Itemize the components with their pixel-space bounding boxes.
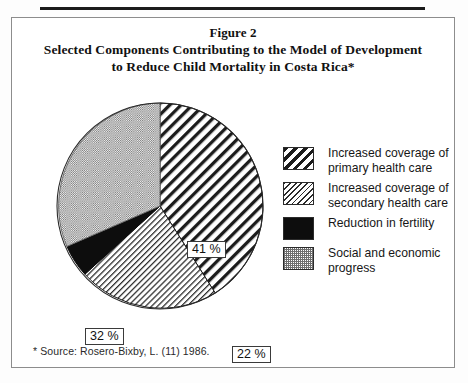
figure-caption: Figure 2 Selected Components Contributin… (11, 24, 455, 75)
legend: Increased coverage of primary health car… (283, 146, 453, 281)
figure-title-line-2: to Reduce Child Mortality in Costa Rica* (11, 58, 455, 75)
pie-chart: 41 % 32 % 22 % 5 % (52, 96, 272, 318)
pie-label-32: 32 % (85, 328, 124, 345)
pie-label-41: 41 % (187, 241, 226, 258)
legend-item-reduction-in-fertility: Reduction in fertility (283, 216, 453, 240)
legend-label-secondary-health-care: Increased coverage of secondary health c… (328, 181, 449, 210)
figure-root: Figure 2 Selected Components Contributin… (0, 0, 468, 383)
legend-swatch-solid-black-icon (283, 217, 314, 240)
top-rule (40, 7, 425, 10)
legend-label-line-1: Reduction in fertility (328, 216, 434, 231)
legend-swatch-hatch-fine-icon (283, 182, 314, 205)
legend-label-primary-health-care: Increased coverage of primary health car… (328, 146, 449, 175)
legend-swatch-dotted-icon (283, 247, 314, 270)
legend-label-line-1: Increased coverage of (328, 146, 449, 161)
legend-label-line-2: progress (328, 261, 440, 276)
legend-label-line-1: Social and economic (328, 246, 440, 261)
figure-title-line-1: Selected Components Contributing to the … (11, 41, 455, 58)
pie-chart-svg (52, 96, 272, 318)
legend-item-secondary-health-care: Increased coverage of secondary health c… (283, 181, 453, 210)
legend-item-primary-health-care: Increased coverage of primary health car… (283, 146, 453, 175)
legend-swatch-hatch-bold-icon (283, 147, 314, 170)
legend-label-line-2: secondary health care (328, 196, 449, 211)
source-footnote: * Source: Rosero-Bixby, L. (11) 1986. (33, 345, 210, 357)
legend-label-line-1: Increased coverage of (328, 181, 449, 196)
figure-number: Figure 2 (11, 24, 455, 41)
legend-item-social-economic-progress: Social and economic progress (283, 246, 453, 275)
legend-label-line-2: primary health care (328, 161, 449, 176)
pie-label-22: 22 % (232, 346, 271, 363)
legend-label-social-economic-progress: Social and economic progress (328, 246, 440, 275)
legend-label-reduction-in-fertility: Reduction in fertility (328, 216, 434, 231)
